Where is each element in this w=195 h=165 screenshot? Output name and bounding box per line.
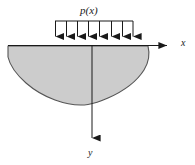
body-region (8, 46, 149, 105)
diagram-canvas (0, 0, 195, 165)
x-axis-label: x (181, 38, 185, 48)
load-label: p(x) (80, 5, 98, 16)
distributed-load-diagram: p(x) x y (0, 0, 195, 165)
body-outline (8, 46, 149, 105)
y-axis-label: y (88, 148, 92, 158)
load-bar-group (55, 21, 133, 37)
